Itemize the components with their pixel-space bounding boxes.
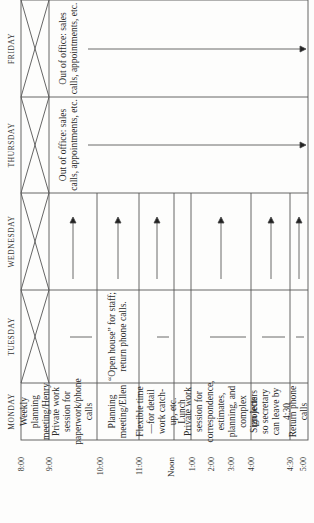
tuesday-cell-open-house: “Open house” for staff; return phone cal…	[97, 290, 139, 383]
weekly-schedule-page: MONDAY TUESDAY WEDNESDAY THURSDAY FRIDAY…	[0, 0, 314, 523]
monday-cell-weekly-planning: Weekly planning meeting/Henry	[21, 383, 49, 440]
monday-cell-private-work-morning: Private work session for paperwork/phone…	[49, 383, 97, 440]
friday-cell-out-of-office: Out of office: sales calls, appointments…	[49, 0, 89, 97]
monday-cell-return-calls: Return phone calls	[290, 383, 308, 440]
monday-cell-planning-ellen: Planning meeting/Ellen	[97, 383, 139, 440]
schedule-grid	[0, 0, 314, 523]
monday-cell-flexible-time: Flexible time—for detail work catch-up, …	[139, 383, 174, 440]
monday-cell-private-work-afternoon: Private work session for correspondence,…	[191, 383, 251, 440]
thursday-cell-out-of-office: Out of office: sales calls, appointments…	[49, 97, 89, 193]
monday-cell-sign-letters: Sign letters so secretary can leave by 4…	[251, 383, 290, 440]
